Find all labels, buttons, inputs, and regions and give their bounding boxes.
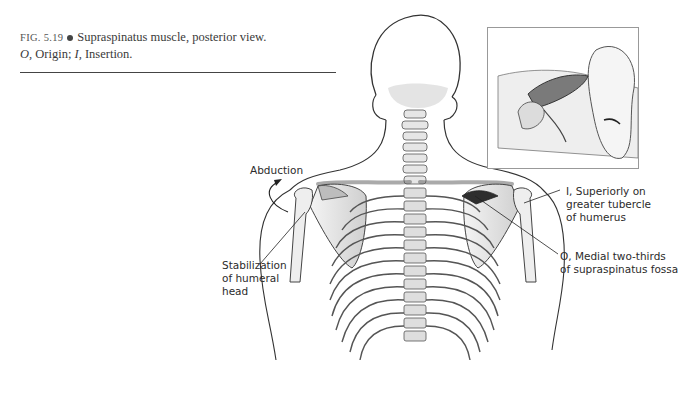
inset-illustration bbox=[487, 27, 639, 169]
abduction-arrow-icon bbox=[274, 179, 282, 186]
label-insertion-line1: I, Superiorly on bbox=[566, 185, 651, 198]
label-stabilization-line1: Stabilization bbox=[222, 259, 287, 272]
label-insertion-line2: greater tubercle bbox=[566, 198, 651, 211]
label-stabilization-line2: of humeral bbox=[222, 272, 287, 285]
label-origin-line2: of supraspinatus fossa bbox=[560, 263, 678, 276]
label-insertion: I, Superiorly on greater tubercle of hum… bbox=[566, 185, 651, 224]
label-abduction: Abduction bbox=[250, 164, 303, 177]
label-origin-line1: O, Medial two-thirds bbox=[560, 250, 678, 263]
side-lying-patient-illustration bbox=[488, 28, 638, 168]
label-insertion-line3: of humerus bbox=[566, 211, 651, 224]
label-stabilization-line3: head bbox=[222, 285, 287, 298]
label-origin: O, Medial two-thirds of supraspinatus fo… bbox=[560, 250, 678, 276]
label-stabilization: Stabilization of humeral head bbox=[222, 259, 287, 298]
